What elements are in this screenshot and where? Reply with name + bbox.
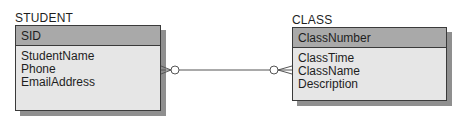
crows-foot-many-icon <box>161 66 171 74</box>
optional-zero-icon <box>171 66 179 74</box>
optional-zero-icon <box>270 66 278 74</box>
relationship-student-class[interactable] <box>0 0 466 120</box>
crows-foot-many-icon <box>278 66 292 74</box>
